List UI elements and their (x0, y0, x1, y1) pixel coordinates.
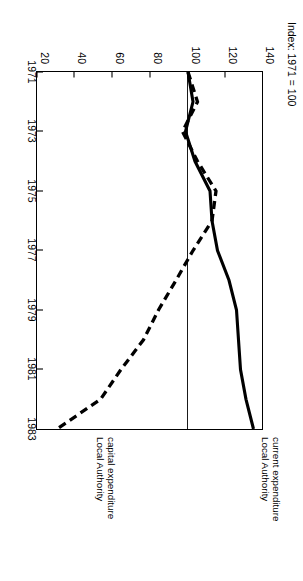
series-label-capital-line2: capital expenditure (106, 437, 117, 520)
chart-title: Index: 1971 = 100 (286, 22, 298, 107)
time-axis-ticks (37, 72, 44, 369)
value-axis-labels: 20 40 60 80 100 120 140 (39, 46, 276, 64)
value-tick-label-80: 80 (152, 52, 164, 64)
series-label-current-line2: current expenditure (271, 437, 282, 522)
series-line-current-expenditure (186, 72, 254, 429)
series-label-capital-line1: Local Authority (95, 437, 106, 501)
year-tick-label-1975: 1975 (26, 179, 38, 203)
year-tick-label-1977: 1977 (26, 238, 38, 262)
series-label-current: Local Authority current expenditure (260, 437, 282, 522)
value-tick-label-100: 100 (190, 46, 202, 64)
series-line-capital-expenditure (57, 72, 216, 429)
year-tick-label-1983: 1983 (26, 417, 38, 441)
value-axis-ticks (37, 72, 225, 79)
year-tick-label-1971: 1971 (26, 60, 38, 84)
year-tick-label-1981: 1981 (26, 357, 38, 381)
value-tick-label-120: 120 (227, 46, 239, 64)
year-tick-label-1973: 1973 (26, 119, 38, 143)
value-tick-label-20: 20 (39, 52, 51, 64)
series-label-current-line1: Local Authority (260, 437, 271, 501)
value-tick-label-40: 40 (76, 52, 88, 64)
series-label-capital: Local Authority capital expenditure (95, 437, 117, 520)
plot-frame (36, 72, 263, 430)
year-tick-label-1979: 1979 (26, 298, 38, 322)
value-tick-label-60: 60 (114, 52, 126, 64)
value-tick-label-140: 140 (264, 46, 276, 64)
line-chart-svg: 20 40 60 80 100 120 140 Index: 1971 = 10… (0, 0, 303, 581)
chart-figure: 20 40 60 80 100 120 140 Index: 1971 = 10… (0, 0, 303, 581)
